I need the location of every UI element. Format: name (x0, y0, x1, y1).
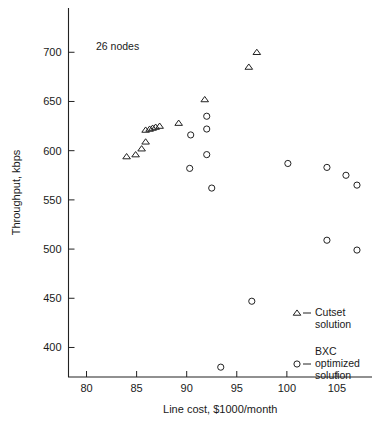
legend-label-bxc-line3: solution (315, 369, 351, 381)
data-point-triangle (142, 139, 150, 144)
data-point-triangle (138, 146, 146, 151)
x-tick-label: 105 (328, 382, 346, 394)
x-tick-label: 95 (231, 382, 243, 394)
data-point-circle (285, 160, 291, 166)
x-tick-label: 80 (80, 382, 92, 394)
legend-label-bxc-line1: BXC (315, 345, 337, 357)
x-tick-label: 90 (181, 382, 193, 394)
y-tick-label: 700 (43, 46, 61, 58)
legend-label-cutset-line1: Cutset (315, 306, 345, 318)
plot-canvas: 40045050055060065070080859095100105Line … (0, 0, 389, 431)
data-point-circle (204, 126, 210, 132)
data-point-circle (218, 364, 224, 370)
data-point-circle (354, 247, 360, 253)
data-point-circle (188, 132, 194, 138)
data-point-circle (249, 298, 255, 304)
legend-label-cutset-line2: solution (315, 318, 351, 330)
chart-legend: CutsetsolutionBXCoptimizedsolution (293, 306, 360, 381)
data-point-triangle (132, 152, 140, 157)
data-point-triangle (245, 64, 253, 69)
y-tick-label: 550 (43, 194, 61, 206)
data-point-circle (204, 152, 210, 158)
x-axis-title: Line cost, $1000/month (163, 403, 277, 415)
data-point-circle (343, 172, 349, 178)
data-point-circle (187, 165, 193, 171)
y-tick-label: 650 (43, 95, 61, 107)
data-point-circle (294, 361, 300, 367)
y-tick-label: 600 (43, 145, 61, 157)
x-tick-label: 85 (130, 382, 142, 394)
data-point-triangle (123, 154, 131, 159)
legend-label-bxc-line2: optimized (315, 357, 360, 369)
scatter-chart-figure: 40045050055060065070080859095100105Line … (0, 0, 389, 431)
y-tick-label: 500 (43, 243, 61, 255)
data-point-circle (204, 113, 210, 119)
y-tick-label: 450 (43, 292, 61, 304)
x-tick-label: 100 (278, 382, 296, 394)
series-bxc-optimized (187, 113, 360, 370)
data-point-circle (324, 237, 330, 243)
data-point-circle (209, 185, 215, 191)
data-point-triangle (175, 120, 183, 125)
data-point-circle (354, 182, 360, 188)
data-point-triangle (253, 49, 261, 54)
data-point-circle (324, 164, 330, 170)
series-cutset (123, 49, 261, 159)
y-axis-title: Throughput, kbps (10, 149, 22, 235)
data-point-triangle (293, 310, 301, 315)
data-point-triangle (201, 96, 209, 101)
y-tick-label: 400 (43, 341, 61, 353)
node-count-annotation: 26 nodes (96, 40, 139, 52)
